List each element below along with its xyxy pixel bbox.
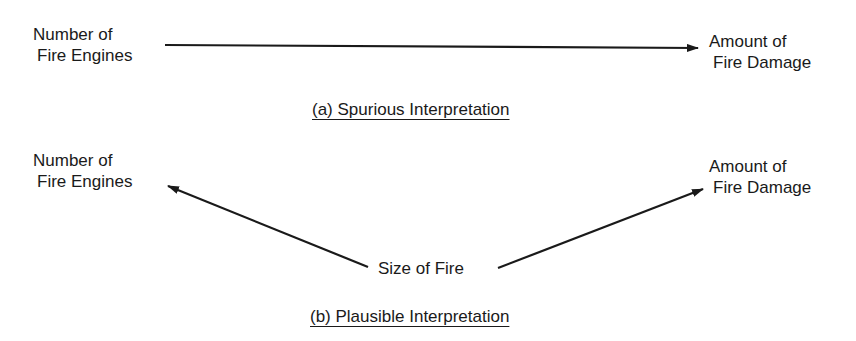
caption-b: (b) Plausible Interpretation <box>310 306 509 327</box>
node-a-amount-of-fire-damage: Amount of Fire Damage <box>709 31 811 73</box>
node-a-number-of-fire-engines: Number of Fire Engines <box>33 24 132 66</box>
node-label-line1: Number of <box>33 150 132 171</box>
arrow-engines-to-damage <box>165 45 698 48</box>
node-b-amount-of-fire-damage: Amount of Fire Damage <box>709 156 811 198</box>
arrow-size-to-damage <box>498 189 703 268</box>
node-label-line1: Number of <box>33 24 132 45</box>
node-b-size-of-fire: Size of Fire <box>378 258 464 279</box>
node-label-line2: Fire Engines <box>33 171 132 192</box>
node-label-line2: Fire Engines <box>33 45 132 66</box>
arrow-size-to-engines <box>168 186 368 267</box>
node-label-line1: Amount of <box>709 156 811 177</box>
node-label-line2: Fire Damage <box>709 177 811 198</box>
node-b-number-of-fire-engines: Number of Fire Engines <box>33 150 132 192</box>
node-label-line2: Fire Damage <box>709 52 811 73</box>
node-label-line1: Amount of <box>709 31 811 52</box>
caption-a: (a) Spurious Interpretation <box>312 99 510 120</box>
